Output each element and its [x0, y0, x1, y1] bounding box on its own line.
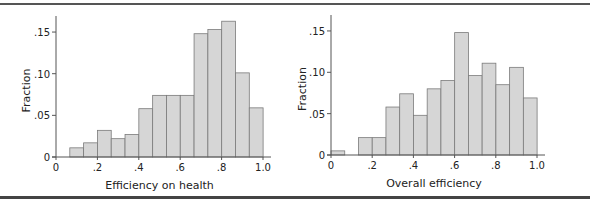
histogram-bar — [70, 148, 84, 157]
histogram-bar — [413, 115, 427, 155]
histogram-bar — [84, 143, 98, 157]
histogram-bar — [372, 138, 386, 155]
y-axis-title: Fraction — [20, 69, 33, 113]
y-tick-label: 0 — [319, 150, 325, 161]
histogram-bar — [482, 63, 496, 155]
y-tick-label: .05 — [34, 110, 50, 121]
x-tick-label: .8 — [491, 160, 501, 171]
x-tick-label: .8 — [217, 162, 227, 173]
y-tick-label: 0 — [44, 152, 50, 163]
y-tick-label: .10 — [309, 67, 325, 78]
histogram-bar — [468, 76, 482, 155]
histogram-overall-efficiency: 0.2.4.6.81.00.05.10.15Overall efficiency… — [296, 15, 545, 190]
x-tick-label: .6 — [450, 160, 460, 171]
x-tick-label: .6 — [175, 162, 185, 173]
y-tick-label: .10 — [34, 69, 50, 80]
histogram-efficiency-on-health: 0.2.4.6.81.00.05.10.15Efficiency on heal… — [20, 16, 271, 192]
histogram-bar — [510, 67, 524, 155]
x-axis-title: Efficiency on health — [105, 179, 214, 192]
histogram-bar — [194, 34, 208, 157]
x-tick-label: .2 — [93, 162, 103, 173]
histogram-bar — [97, 130, 111, 157]
histogram-bar — [222, 21, 236, 157]
histogram-bar — [523, 98, 537, 155]
x-tick-label: 1.0 — [255, 162, 271, 173]
y-tick-label: .05 — [309, 109, 325, 120]
y-tick-label: .15 — [34, 27, 50, 38]
x-tick-label: 0 — [328, 160, 334, 171]
histogram-bar — [208, 30, 222, 157]
y-tick-label: .15 — [309, 26, 325, 37]
x-tick-label: .4 — [409, 160, 419, 171]
x-tick-label: .4 — [134, 162, 144, 173]
histogram-bar — [180, 95, 194, 157]
y-axis-title: Fraction — [296, 67, 309, 111]
x-tick-label: 1.0 — [529, 160, 545, 171]
histogram-bar — [125, 135, 139, 157]
histogram-bar — [235, 73, 249, 157]
histogram-bar — [400, 94, 414, 155]
histogram-bar — [427, 89, 441, 155]
histogram-bar — [386, 107, 400, 155]
histogram-bar — [249, 108, 263, 157]
histogram-bar — [496, 85, 510, 155]
histogram-bar — [111, 139, 125, 157]
x-tick-label: 0 — [53, 162, 59, 173]
x-axis-title: Overall efficiency — [386, 177, 482, 190]
x-tick-label: .2 — [367, 160, 377, 171]
histogram-bar — [153, 95, 167, 157]
histogram-bar — [139, 109, 153, 157]
histogram-figure: 0.2.4.6.81.00.05.10.15Efficiency on heal… — [0, 0, 590, 203]
histogram-bar — [331, 151, 345, 155]
histogram-bar — [455, 33, 469, 155]
histogram-bar — [358, 138, 372, 155]
histogram-bar — [166, 95, 180, 157]
histogram-bar — [441, 81, 455, 155]
